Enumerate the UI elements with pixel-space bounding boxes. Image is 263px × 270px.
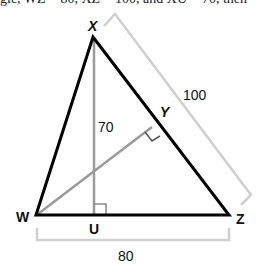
vertex-label-x: X	[87, 18, 99, 34]
vertex-label-w: W	[16, 209, 30, 225]
vertex-label-z: Z	[236, 211, 245, 227]
right-angle-mark-u	[94, 204, 106, 215]
measurement-xu: 70	[98, 119, 114, 135]
triangle-diagram: X W Z U Y 70 100 80	[0, 0, 263, 270]
wz-dimension-bracket	[37, 228, 229, 240]
measurement-xz: 100	[183, 87, 207, 103]
xz-dimension-bracket	[104, 14, 251, 205]
measurement-wz: 80	[118, 248, 134, 264]
vertex-label-u: U	[89, 221, 99, 237]
vertex-label-y: Y	[160, 104, 171, 120]
right-angle-mark-y	[145, 132, 160, 141]
